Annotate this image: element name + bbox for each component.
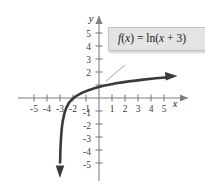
x-axis-label: x: [172, 98, 178, 109]
y-tick-label: -2: [83, 121, 91, 131]
x-tick-label: -3: [56, 104, 64, 114]
y-tick-label: -4: [83, 147, 91, 157]
y-tick-label: -1: [83, 108, 91, 118]
y-tick-label: 2: [86, 68, 91, 78]
x-tick-label: 3: [136, 104, 141, 114]
curve-down-arrowhead: [56, 166, 65, 178]
x-tick-label: -2: [69, 104, 77, 114]
x-tick-labels: -5 -4 -3 -2 -1 1 2 3 4 5: [30, 104, 167, 114]
y-tick-label: 3: [86, 55, 91, 65]
x-tick-label: 5: [162, 104, 167, 114]
x-tick-label: -4: [43, 104, 51, 114]
function-curve: [60, 77, 168, 162]
callout-plus-three: + 3): [164, 32, 186, 44]
y-tick-labels: 5 4 3 2 -1 -2 -3 -4 -5: [83, 29, 91, 170]
x-tick-label: 4: [149, 104, 154, 114]
callout-ln: ln(: [146, 32, 159, 44]
function-callout-text: f(x) = ln(x + 3): [118, 32, 186, 44]
x-axis-arrowhead: [180, 94, 188, 101]
y-tick-label: -5: [83, 160, 91, 170]
x-axis: [18, 94, 188, 101]
y-axis-label: y: [88, 13, 94, 24]
y-axis-arrowhead: [95, 16, 102, 24]
callout-equals: =: [134, 32, 146, 44]
graph-figure: -5 -4 -3 -2 -1 1 2 3 4 5 5 4 3 2 -1 -2 -…: [0, 0, 205, 189]
y-tick-label: 5: [86, 29, 91, 39]
y-tick-label: -3: [83, 134, 91, 144]
x-tick-label: 2: [123, 104, 128, 114]
x-tick-label: 1: [110, 104, 115, 114]
x-tick-label: -5: [30, 104, 38, 114]
curve-right-arrowhead: [165, 72, 178, 81]
y-tick-label: 4: [86, 42, 91, 52]
callout-leader-line: [106, 65, 125, 81]
function-callout-box: f(x) = ln(x + 3): [108, 27, 205, 51]
